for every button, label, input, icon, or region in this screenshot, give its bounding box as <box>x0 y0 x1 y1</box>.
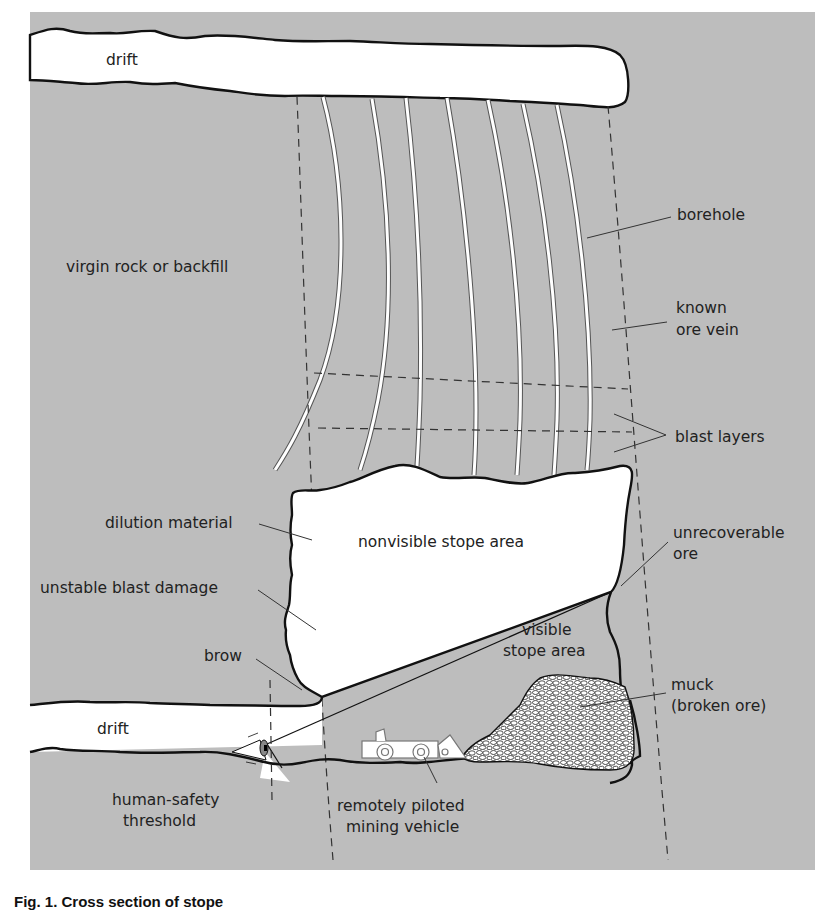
label-nonvisible-stope-area: nonvisible stope area <box>358 533 524 551</box>
label-drift-bottom: drift <box>97 720 129 738</box>
label-remote-vehicle-2: mining vehicle <box>346 818 459 836</box>
label-remote-vehicle-1: remotely piloted <box>337 797 465 815</box>
label-human-safety-threshold-1: human-safety <box>112 791 219 809</box>
label-blast-layers: blast layers <box>675 428 765 446</box>
label-unstable-blast-damage: unstable blast damage <box>40 579 218 597</box>
label-muck-1: muck <box>671 676 713 694</box>
label-virgin-rock: virgin rock or backfill <box>66 258 228 276</box>
figure-caption: Fig. 1. Cross section of stope <box>14 893 223 910</box>
label-unrecoverable-ore-2: ore <box>673 545 698 563</box>
label-borehole: borehole <box>677 206 745 224</box>
label-visible-stope-area-1: visible <box>522 621 572 639</box>
label-dilution-material: dilution material <box>105 514 233 532</box>
label-visible-stope-area-2: stope area <box>503 642 586 660</box>
label-unrecoverable-ore-1: unrecoverable <box>673 524 784 542</box>
label-drift-top: drift <box>106 51 138 69</box>
label-brow: brow <box>204 647 242 665</box>
label-known-ore-vein-2: ore vein <box>676 321 739 339</box>
label-known-ore-vein-1: known <box>676 299 727 317</box>
label-muck-2: (broken ore) <box>671 697 766 715</box>
label-human-safety-threshold-2: threshold <box>123 812 196 830</box>
